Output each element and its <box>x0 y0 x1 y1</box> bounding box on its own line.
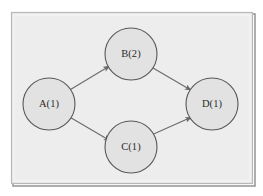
node-c-label: C(1) <box>121 141 141 153</box>
node-d-label: D(1) <box>202 98 223 110</box>
node-b[interactable]: B(2) <box>105 28 157 80</box>
node-a[interactable]: A(1) <box>23 78 75 130</box>
node-c[interactable]: C(1) <box>105 121 157 173</box>
node-b-label: B(2) <box>121 48 141 60</box>
node-d[interactable]: D(1) <box>186 78 238 130</box>
graph-diagram: A(1) B(2) C(1) D(1) <box>0 0 263 196</box>
node-a-label: A(1) <box>39 98 60 110</box>
figure-root: A(1) B(2) C(1) D(1) <box>0 0 263 196</box>
